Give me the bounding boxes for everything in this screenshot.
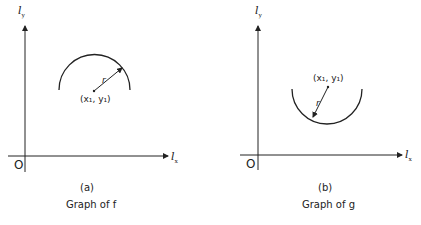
panel-b-center-label: (x₁, y₁) — [313, 73, 344, 83]
panel-a-origin-label: O — [14, 158, 23, 172]
panel-b-caption-letter: (b) — [318, 182, 332, 193]
diagram-canvas — [0, 0, 421, 225]
panel-a-radius-arrow — [94, 68, 122, 91]
panel-a-y-axis-label: ly — [18, 4, 25, 18]
panel-a-x-axis-label: lx — [171, 150, 178, 164]
panel-a-upper-semicircle — [59, 55, 130, 90]
panel-a-center-label: (x₁, y₁) — [80, 94, 111, 104]
panel-b-caption: Graph of g — [302, 199, 355, 210]
panel-b-y-axis-label: ly — [255, 4, 262, 18]
panel-a-caption: Graph of f — [66, 199, 116, 210]
panel-a-caption-letter: (a) — [80, 182, 94, 193]
panel-b-radius-label: r — [316, 98, 320, 108]
panel-b-origin-label: O — [246, 157, 255, 171]
panel-b-axes — [240, 26, 402, 170]
panel-b-x-axis-label: lx — [405, 148, 412, 162]
panel-a-radius-label: r — [102, 75, 106, 85]
panel-b-lower-semicircle — [292, 89, 362, 124]
